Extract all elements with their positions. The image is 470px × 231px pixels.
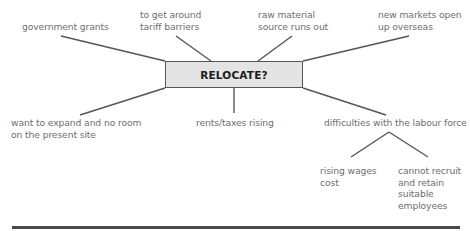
node-labour-force: difficulties with the labour force xyxy=(324,117,467,129)
node-tariff-barriers: to get around tariff barriers xyxy=(140,9,201,32)
node-recruit-retain: cannot recruit and retain suitable emplo… xyxy=(398,165,461,211)
node-raw-material: raw material source runs out xyxy=(258,9,328,32)
node-expand: want to expand and no room on the presen… xyxy=(11,117,141,140)
node-rising-wages: rising wages cost xyxy=(320,165,376,188)
relocate-box: RELOCATE? xyxy=(165,61,303,88)
node-new-markets: new markets open up overseas xyxy=(378,9,462,32)
relocate-label: RELOCATE? xyxy=(200,69,268,81)
node-rents-taxes: rents/taxes rising xyxy=(196,117,274,129)
bottom-divider xyxy=(12,226,460,229)
node-government-grants: government grants xyxy=(22,21,109,33)
